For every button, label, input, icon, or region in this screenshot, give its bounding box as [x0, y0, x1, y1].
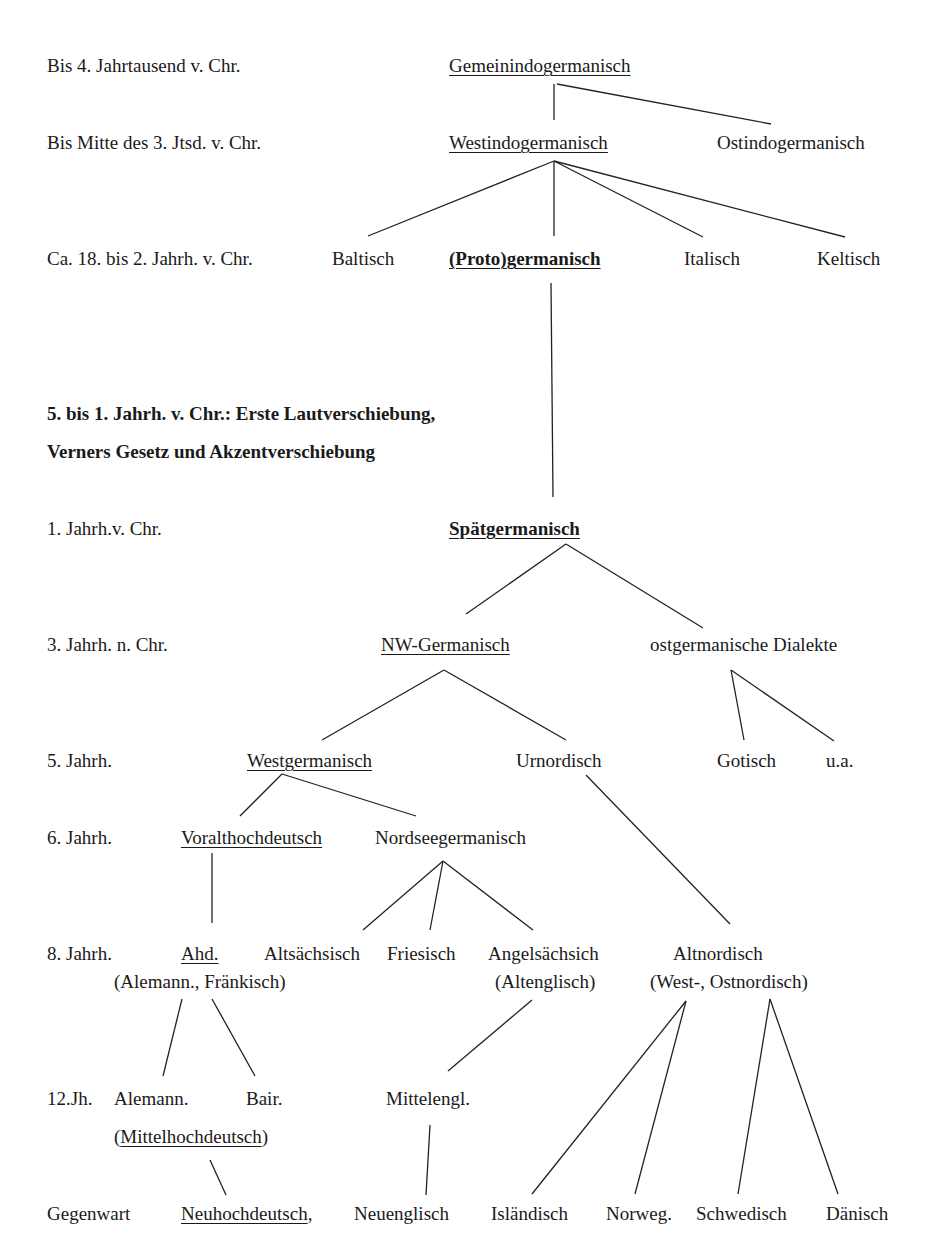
edge-angel-mittelengl	[448, 1000, 532, 1071]
period-label: 5. Jahrh.	[47, 750, 112, 772]
tree-connectors	[0, 0, 943, 1259]
edge-nw-urnordisch	[444, 670, 566, 740]
node-gemeinindogermanisch: Gemeinindogermanisch	[449, 55, 631, 77]
period-label: 6. Jahrh.	[47, 827, 112, 849]
edge-proto-spaet	[551, 283, 553, 497]
node-schwedisch: Schwedisch	[696, 1203, 787, 1225]
edge-spaet-nw	[466, 544, 566, 614]
node-keltisch: Keltisch	[817, 248, 880, 270]
edge-west-baltisch	[368, 161, 554, 236]
period-label: 8. Jahrh.	[47, 943, 112, 965]
node-urnordisch: Urnordisch	[516, 750, 601, 772]
node-nw-germanisch: NW-Germanisch	[381, 634, 510, 656]
edge-urnordisch-altnordisch	[586, 775, 730, 924]
node-ahd-sub: (Alemann., Fränkisch)	[114, 971, 285, 993]
period-label: 3. Jahrh. n. Chr.	[47, 634, 168, 656]
node-mittelhochdeutsch: Mittelhochdeutsch	[120, 1126, 261, 1147]
edge-mittelengl-neuenglisch	[426, 1125, 430, 1195]
comma: ,	[308, 1203, 313, 1224]
node-bair: Bair.	[246, 1088, 282, 1110]
edge-altnord-daenisch	[770, 999, 838, 1194]
node-voralthochdeutsch: Voralthochdeutsch	[181, 827, 322, 849]
node-friesisch: Friesisch	[387, 943, 456, 965]
edge-nordsee-altsaechsisch	[363, 861, 443, 930]
node-daenisch: Dänisch	[826, 1203, 888, 1225]
node-alemann: Alemann.	[114, 1088, 188, 1110]
edge-west-keltisch	[554, 161, 845, 237]
edge-altnord-norweg	[635, 1001, 686, 1194]
edge-nordsee-angelsaechsisch	[443, 861, 533, 930]
node-italisch: Italisch	[684, 248, 740, 270]
edge-gemein-ost	[557, 84, 771, 124]
node-neuhochdeutsch: Neuhochdeutsch	[181, 1203, 308, 1224]
node-ostgermanische-dialekte: ostgermanische Dialekte	[650, 634, 837, 656]
period-label: Bis Mitte des 3. Jtsd. v. Chr.	[47, 132, 261, 154]
edge-ahd-alemann	[163, 999, 182, 1076]
annotation-line-1: 5. bis 1. Jahrh. v. Chr.: Erste Lautvers…	[47, 403, 435, 425]
node-altnordisch: Altnordisch	[673, 943, 763, 965]
annotation-line-2: Verners Gesetz und Akzentverschiebung	[47, 441, 375, 463]
node-baltisch: Baltisch	[332, 248, 394, 270]
node-altnordisch-sub: (West-, Ostnordisch)	[650, 971, 808, 993]
node-westgermanisch: Westgermanisch	[247, 750, 372, 772]
node-mittelhochdeutsch-group: (Mittelhochdeutsch)	[114, 1126, 268, 1148]
edge-westgerm-voralt	[240, 774, 282, 816]
period-label: Bis 4. Jahrtausend v. Chr.	[47, 55, 241, 77]
paren-close: )	[262, 1126, 268, 1147]
edge-altnord-islaendisch	[532, 1001, 686, 1194]
node-ahd: Ahd.	[181, 943, 218, 965]
node-westindogermanisch: Westindogermanisch	[449, 132, 608, 154]
edge-west-italisch	[554, 161, 703, 237]
edge-westgerm-nordsee	[282, 774, 416, 816]
node-norweg: Norweg.	[606, 1203, 672, 1225]
period-label: 12.Jh.	[47, 1088, 92, 1110]
edge-spaet-ost	[566, 544, 703, 628]
node-angelsaechsisch-sub: (Altenglisch)	[495, 971, 595, 993]
node-angelsaechsisch: Angelsächsich	[488, 943, 599, 965]
edge-mhd-nhd	[210, 1160, 226, 1195]
edge-nw-westgerm	[322, 670, 444, 740]
node-protogermanisch: (Proto)germanisch	[449, 248, 601, 270]
period-label: 1. Jahrh.v. Chr.	[47, 518, 162, 540]
node-neuenglisch: Neuenglisch	[354, 1203, 449, 1225]
node-mittelengl: Mittelengl.	[386, 1088, 470, 1110]
edge-ost-gotisch	[731, 670, 744, 740]
node-nordseegermanisch: Nordseegermanisch	[375, 827, 526, 849]
period-label: Gegenwart	[47, 1203, 130, 1225]
node-spaetgermanisch: Spätgermanisch	[449, 518, 580, 540]
node-gotisch: Gotisch	[717, 750, 776, 772]
edge-ost-ua	[731, 670, 834, 741]
period-label: Ca. 18. bis 2. Jahrh. v. Chr.	[47, 248, 253, 270]
edge-altnord-schwedisch	[738, 999, 770, 1194]
node-ua: u.a.	[826, 750, 853, 772]
node-ostindogermanisch: Ostindogermanisch	[717, 132, 865, 154]
edge-ahd-bair	[212, 999, 255, 1076]
node-neuhochdeutsch-group: Neuhochdeutsch,	[181, 1203, 312, 1225]
node-islaendisch: Isländisch	[491, 1203, 568, 1225]
node-altsaechsisch: Altsächsisch	[264, 943, 360, 965]
